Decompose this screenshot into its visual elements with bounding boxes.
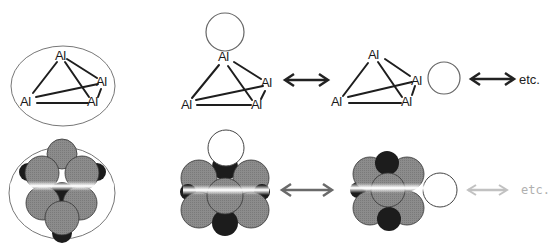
resonance-structure-2: Al Al Al Al [331, 47, 460, 109]
atom-label: Al [87, 94, 98, 109]
reference-model [9, 139, 115, 243]
atom-label: Al [411, 73, 422, 88]
double-arrow-icon [282, 184, 332, 196]
double-arrow-icon [468, 185, 507, 195]
resonance-model-2 [346, 151, 457, 231]
resonance-structure-1: Al Al Al Al [181, 13, 272, 112]
reference-cluster: Al Al Al Al [11, 46, 115, 126]
etc-label: etc. [521, 183, 550, 197]
atom-label: Al [20, 94, 31, 109]
white-sphere [208, 130, 244, 166]
atom-label: Al [261, 75, 272, 90]
atom-label: Al [55, 48, 66, 63]
atom-label: Al [251, 97, 262, 112]
atom-label: Al [96, 74, 107, 89]
resonance-model-1 [180, 130, 270, 236]
double-arrow-icon [471, 73, 514, 85]
open-circle [428, 62, 460, 94]
atom-label: Al [401, 94, 412, 109]
atom-label: Al [218, 49, 229, 64]
atom-label: Al [331, 94, 342, 109]
double-arrow-icon [285, 74, 328, 86]
atom-label: Al [181, 97, 192, 112]
etc-label: etc. [519, 72, 540, 87]
atom-label: Al [368, 47, 379, 62]
open-circle [206, 13, 244, 51]
resonance-diagram: Al Al Al Al Al Al Al Al Al Al Al Al [0, 0, 560, 249]
white-sphere [423, 173, 457, 207]
